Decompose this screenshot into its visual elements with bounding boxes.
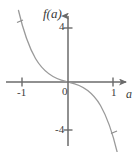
y-tick-label-positive-four: 4 [59, 21, 65, 32]
x-axis-label: a [126, 88, 132, 100]
x-tick-label-positive-one: 1 [111, 87, 117, 98]
plot-canvas [0, 0, 138, 152]
y-axis-label: f(a) [43, 7, 62, 20]
origin-label: 0 [62, 86, 68, 97]
y-tick-label-negative-four: -4 [55, 124, 64, 135]
function-graph-figure: f(a) a 4 -4 -1 0 1 [0, 0, 138, 152]
x-tick-label-negative-one: -1 [17, 87, 26, 98]
